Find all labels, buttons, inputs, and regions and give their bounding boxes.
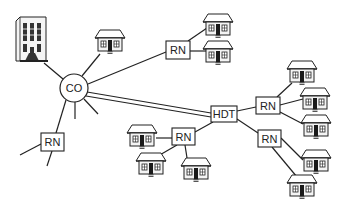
hdt-node: HDT <box>211 106 237 122</box>
house-icon <box>181 158 211 182</box>
network-diagram: CO HDT RN RN RN RN RN <box>0 0 346 207</box>
rn-right-upper-node: RN <box>256 97 280 114</box>
stub-co-down-right <box>84 99 98 114</box>
rn-right-upper-label: RN <box>260 100 276 112</box>
rn-left-label: RN <box>45 136 61 148</box>
rn-top-node: RN <box>166 41 190 59</box>
house-icon <box>301 150 331 174</box>
link-co-building <box>44 63 63 79</box>
link-co-rn-left <box>56 100 66 133</box>
link-rnrl-house2 <box>272 147 297 177</box>
rn-right-lower-node: RN <box>258 130 281 147</box>
link-rnru-house3 <box>280 112 303 124</box>
hdt-label: HDT <box>213 108 236 120</box>
rn-center-label: RN <box>176 131 192 143</box>
central-office-node: CO <box>60 74 88 102</box>
stub-rn-left-south <box>47 151 52 166</box>
house-icon <box>136 153 166 177</box>
office-building-icon <box>16 17 48 62</box>
rn-top-label: RN <box>170 44 186 56</box>
link-hdt-rn-right-upper <box>237 107 256 111</box>
link-rnru-house1 <box>277 83 292 97</box>
rn-right-lower-label: RN <box>262 133 278 145</box>
rn-left-node: RN <box>41 133 64 151</box>
house-icon <box>127 125 157 149</box>
link-rnru-house2 <box>280 99 303 105</box>
house-icon <box>300 88 330 112</box>
link-rnc-house3 <box>185 145 187 158</box>
link-rn-top-house1 <box>188 28 207 41</box>
house-icon <box>287 61 317 85</box>
link-co-house <box>82 54 100 76</box>
co-label: CO <box>66 82 83 94</box>
rn-center-node: RN <box>172 128 195 145</box>
house-icon <box>203 14 233 38</box>
house-icon <box>95 30 125 54</box>
link-co-rn-top <box>88 52 166 84</box>
stub-rn-left-west <box>20 144 41 155</box>
house-icon <box>287 175 317 199</box>
house-icon <box>203 41 233 65</box>
house-icon <box>301 115 331 139</box>
link-hdt-rn-center <box>195 122 213 132</box>
link-co-hdt-a <box>87 92 211 113</box>
link-co-hdt-b <box>86 96 211 117</box>
link-rnrl-house1 <box>281 138 303 160</box>
link-hdt-rn-right-lower <box>237 119 258 133</box>
